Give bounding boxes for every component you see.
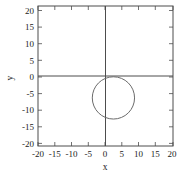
x-tick-label: -15 — [49, 149, 61, 159]
y-tick-label: -20 — [22, 139, 34, 149]
left-axis-ticks — [38, 11, 42, 144]
x-tick-label: -20 — [32, 149, 44, 159]
x-axis-title: x — [103, 162, 108, 172]
y-tick-label: 5 — [30, 56, 35, 66]
right-axis-ticks — [169, 11, 173, 144]
y-tick-labels: 20 15 10 5 0 -5 -10 -15 -20 — [22, 6, 35, 149]
y-tick-label: 15 — [25, 22, 35, 32]
y-tick-label: -5 — [27, 89, 35, 99]
y-tick-label: 20 — [25, 6, 35, 16]
plot-svg: 20 15 10 5 0 -5 -10 -15 -20 -20 -15 -10 … — [0, 0, 184, 177]
x-tick-label: 5 — [120, 149, 125, 159]
x-tick-label: 20 — [168, 149, 178, 159]
x-tick-label: 10 — [134, 149, 144, 159]
x-tick-label: -5 — [85, 149, 93, 159]
figure-container: 20 15 10 5 0 -5 -10 -15 -20 -20 -15 -10 … — [0, 0, 184, 177]
x-tick-labels: -20 -15 -10 -5 0 5 10 15 20 — [32, 149, 177, 159]
y-tick-label: -10 — [22, 105, 34, 115]
x-tick-label: -10 — [66, 149, 78, 159]
x-tick-label: 0 — [103, 149, 108, 159]
y-tick-label: -15 — [22, 122, 34, 132]
y-tick-label: 10 — [25, 39, 35, 49]
y-tick-label: 0 — [30, 72, 35, 82]
y-axis-title: y — [5, 75, 15, 80]
x-tick-label: 15 — [151, 149, 161, 159]
data-circle — [92, 77, 134, 119]
